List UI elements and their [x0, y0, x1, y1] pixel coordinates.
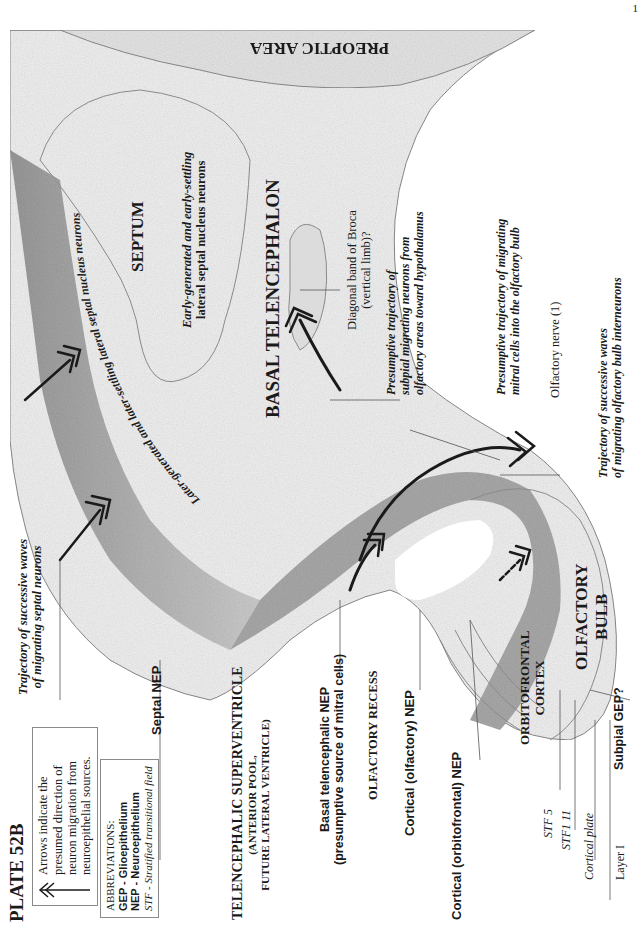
trajectory-septal-line-2: of migrating septal neurons — [30, 539, 44, 695]
olfactory-bulb-label: OLFACTORY BULB — [572, 564, 611, 670]
olfactory-recess-label: OLFACTORY RECESS — [366, 670, 380, 800]
early-septal-line-1: Early-generated and early-settling — [180, 152, 194, 328]
abbreviation-stf: STF - Stratified transitional field — [142, 766, 155, 911]
basal-telencephalon-label: BASAL TELENCEPHALON — [262, 179, 284, 418]
diagonal-band-line-1: Diagonal band of Broca — [345, 210, 359, 330]
orbitofrontal-cortex-label: ORBITOFRONTAL CORTEX — [518, 631, 548, 745]
trajectory-septal-line-1: Trajectory of successive waves — [16, 539, 30, 695]
cortical-olfactory-nep-label: Cortical (olfactory) NEP — [403, 690, 418, 836]
abbreviations-heading: ABBREVIATIONS: — [104, 766, 117, 911]
cortical-orbitofrontal-nep-label: Cortical (orbitofrontal) NEP — [450, 752, 465, 920]
mitral-trajectory-line-1: Presumptive trajectory of migrating — [495, 219, 509, 395]
bulb-interneurons-line-1: Trajectory of successive waves — [597, 277, 611, 478]
mitral-trajectory-label: Presumptive trajectory of migrating mitr… — [495, 219, 523, 395]
subpial-trajectory-line-3: olfactory areas toward hypothalamus — [413, 211, 427, 395]
stf11-label: STF1 11 — [560, 810, 574, 850]
arrow-legend-line-3: neuron migration from — [65, 756, 79, 875]
superventricle-label: TELENCEPHALIC SUPERVENTRICLE (ANTERIOR P… — [230, 690, 271, 920]
early-septal-label: Early-generated and early-settling later… — [180, 152, 209, 328]
superventricle-title: TELENCEPHALIC SUPERVENTRICLE — [230, 690, 246, 920]
septum-label: SEPTUM — [128, 201, 148, 272]
diagonal-band-label: Diagonal band of Broca (vertical limb)? — [345, 210, 374, 330]
arrow-legend-box: Arrows indicate the presumed direction o… — [32, 727, 98, 906]
bulb-interneurons-label: Trajectory of successive waves of migrat… — [597, 277, 625, 478]
subpial-trajectory-label: Presumptive trajectory of subpial migrat… — [385, 211, 426, 395]
olfactory-nerve-label: Olfactory nerve (1) — [548, 302, 562, 398]
orbitofrontal-line-2: CORTEX — [533, 631, 548, 745]
arrow-legend-line-1: Arrows indicate the — [36, 756, 50, 875]
anatomical-plate: 1 PLATE 52B Arrows indicate the presumed… — [0, 0, 642, 925]
plate-title: PLATE 52B — [6, 824, 28, 922]
layer1-label: Layer I — [614, 845, 628, 880]
double-chevron-arrow-icon — [36, 881, 94, 899]
stf5-label: STF 5 — [542, 809, 556, 838]
basal-nep-line-1: Basal telencephalic NEP — [318, 654, 332, 865]
preoptic-area-label: PREOPTIC AREA — [250, 38, 389, 58]
olfactory-bulb-line-1: OLFACTORY — [572, 564, 592, 670]
trajectory-septal-label: Trajectory of successive waves of migrat… — [16, 539, 45, 695]
basal-nep-line-2: (presumptive source of mitral cells) — [332, 654, 346, 865]
olfactory-bulb-line-2: BULB — [592, 564, 612, 670]
basal-nep-label: Basal telencephalic NEP (presumptive sou… — [318, 654, 347, 865]
superventricle-sub1: (ANTERIOR POOL, — [246, 690, 259, 920]
subpial-trajectory-line-2: subpial migrating neurons from — [399, 211, 413, 395]
abbreviation-nep: NEP - Neuroepithelium — [129, 766, 142, 911]
subpial-gep-label: Subpial GEP? — [612, 687, 626, 770]
septal-nep-label: Septal NEP — [150, 666, 165, 735]
page-marker: 1 — [633, 2, 639, 14]
abbreviation-gep: GEP - Glioepithelium — [117, 766, 130, 911]
subpial-trajectory-line-1: Presumptive trajectory of — [385, 211, 399, 395]
early-septal-line-2: lateral septal nucleus neurons — [194, 152, 208, 328]
cortical-plate-label: Cortical plate — [583, 813, 597, 880]
diagonal-band-line-2: (vertical limb)? — [359, 210, 373, 330]
orbitofrontal-line-1: ORBITOFRONTAL — [518, 631, 533, 745]
bulb-interneurons-line-2: of migrating olfactory bulb interneurons — [611, 277, 625, 478]
mitral-trajectory-line-2: mitral cells into the olfactory bulb — [509, 219, 523, 395]
arrow-legend-line-2: presumed direction of — [51, 756, 65, 875]
abbreviations-box: ABBREVIATIONS: GEP - Glioepithelium NEP … — [100, 759, 159, 918]
superventricle-sub2: FUTURE LATERAL VENTRICLE) — [259, 690, 272, 920]
arrow-legend-line-4: neuroepithelial sources. — [79, 756, 93, 875]
